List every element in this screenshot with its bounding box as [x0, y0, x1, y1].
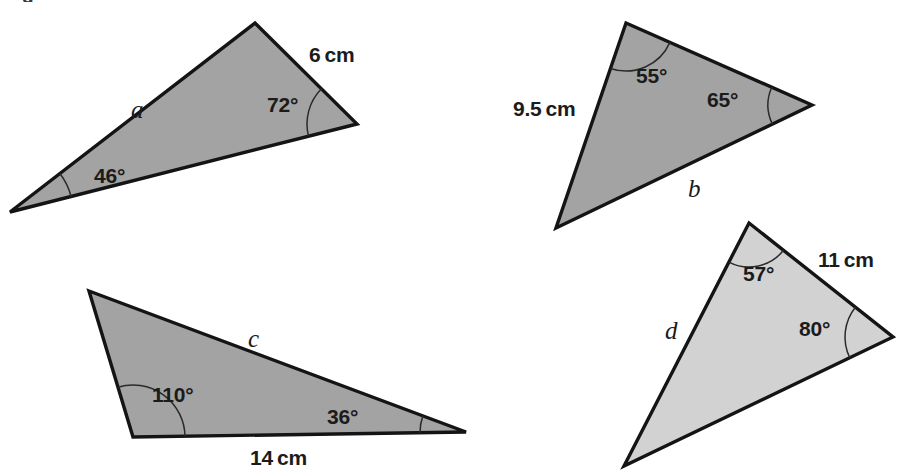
- side-label-d: d: [665, 318, 678, 343]
- angle-80-label: 80°: [799, 318, 830, 339]
- angle-36-label: 36°: [327, 406, 358, 427]
- angle-55-label: 55°: [636, 65, 667, 86]
- side-label-b: b: [688, 176, 701, 201]
- length-14cm-label: 14 cm: [250, 447, 307, 468]
- angle-72-label: 72°: [267, 94, 298, 115]
- length-11cm-label: 11 cm: [818, 249, 874, 270]
- triangle-a: [10, 23, 357, 212]
- geometry-figure: g 46°72°6 cma55°65°9.5 cmb110°36°14 cmc5…: [0, 0, 899, 476]
- length-6cm-label: 6 cm: [309, 44, 354, 65]
- angle-110-label: 110°: [152, 384, 193, 405]
- triangle-c: [89, 291, 466, 437]
- side-label-a: a: [131, 97, 144, 122]
- length-9.5cm-label: 9.5 cm: [513, 98, 576, 119]
- angle-57-label: 57°: [743, 263, 774, 284]
- triangle-b: [556, 23, 812, 228]
- triangles-canvas: [0, 0, 899, 476]
- angle-46-label: 46°: [94, 165, 125, 186]
- side-label-c: c: [248, 326, 259, 351]
- angle-65-label: 65°: [707, 89, 738, 110]
